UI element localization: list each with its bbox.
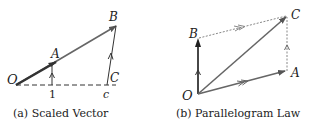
label-A: A [290, 66, 300, 80]
tick-label-1: 1 [49, 88, 56, 101]
label-O: O [182, 88, 193, 103]
dotted-BC [199, 16, 286, 38]
panel-scaled-vector: O A B C 1 c (a) Scaled Vector [7, 10, 119, 120]
label-A: A [50, 47, 60, 61]
label-B: B [188, 27, 198, 41]
label-O: O [7, 72, 18, 87]
caption-b: (b) Parallelogram Law [176, 107, 301, 120]
label-B: B [108, 10, 118, 24]
double-chevron-icon [234, 25, 245, 31]
caption-a: (a) Scaled Vector [13, 107, 109, 120]
label-C: C [110, 71, 119, 85]
tick-label-c: c [103, 88, 109, 101]
panel-parallelogram-law: O B C A (b) Parallelogram Law [176, 8, 301, 120]
label-C: C [291, 8, 300, 22]
vector-diagrams: O A B C 1 c (a) Scaled Vector O B C A (b… [0, 0, 311, 127]
